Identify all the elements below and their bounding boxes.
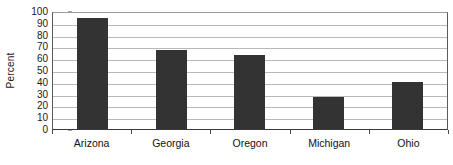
bar-chart: Percent 1009080706050403020100 ArizonaGe… xyxy=(0,0,453,165)
bar-michigan xyxy=(313,97,344,129)
y-axis-tick-label: 80 xyxy=(37,31,48,41)
bar-oregon xyxy=(234,55,265,129)
x-axis-label-georgia: Georgia xyxy=(131,137,210,149)
x-axis-tick-mark xyxy=(52,130,53,134)
x-axis-tick-mark xyxy=(131,130,132,134)
y-axis-tick-label: 60 xyxy=(37,54,48,64)
plot-area xyxy=(52,12,448,130)
bars-container xyxy=(53,13,447,129)
y-axis-tick-label: 100 xyxy=(31,7,48,17)
bar-georgia xyxy=(156,50,187,129)
bar-slot xyxy=(211,13,290,129)
y-axis-tick-labels: 1009080706050403020100 xyxy=(20,12,48,130)
x-axis-tick-mark xyxy=(290,130,291,134)
x-axis-tick-mark xyxy=(369,130,370,134)
x-axis-label-arizona: Arizona xyxy=(52,137,131,149)
y-axis-tick-label: 30 xyxy=(37,90,48,100)
y-axis-tick-label: 50 xyxy=(37,66,48,76)
x-axis-category-labels: ArizonaGeorgiaOregonMichiganOhio xyxy=(52,137,448,149)
y-axis-title-text: Percent xyxy=(6,52,17,88)
y-axis-tick-label: 40 xyxy=(37,78,48,88)
y-axis-tick-label: 90 xyxy=(37,19,48,29)
x-axis-label-ohio: Ohio xyxy=(369,137,448,149)
bar-slot xyxy=(368,13,447,129)
x-axis-label-michigan: Michigan xyxy=(290,137,369,149)
x-axis-tick-marks xyxy=(52,130,448,135)
bar-ohio xyxy=(392,82,423,129)
y-axis-tick-label: 0 xyxy=(42,125,48,135)
x-axis-label-oregon: Oregon xyxy=(210,137,289,149)
y-axis-tick-label: 10 xyxy=(37,113,48,123)
bar-arizona xyxy=(77,18,108,129)
y-axis-title: Percent xyxy=(2,0,20,140)
y-axis-tick-label: 20 xyxy=(37,101,48,111)
x-axis-tick-mark xyxy=(448,130,449,134)
x-axis-tick-mark xyxy=(210,130,211,134)
y-axis-tick-label: 70 xyxy=(37,42,48,52)
bar-slot xyxy=(132,13,211,129)
bar-slot xyxy=(53,13,132,129)
bar-slot xyxy=(289,13,368,129)
